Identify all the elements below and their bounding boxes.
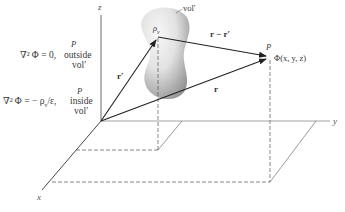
outside-eq-volume: vol′ — [72, 61, 86, 71]
x-axis-label: x — [37, 193, 41, 202]
inside-eq-point-label: P — [77, 87, 82, 96]
source-volume-blob — [141, 7, 189, 99]
y-axis-label: y — [333, 117, 337, 126]
outside-eq-lhs: ∇² Φ = 0, — [20, 51, 56, 61]
x-axis — [42, 121, 101, 190]
inside-eq-volume: vol′ — [74, 107, 88, 117]
vector-r-prime-label: r′ — [117, 72, 124, 81]
potential-label: Φ(x, y, z) — [274, 54, 306, 63]
vector-r-label: r — [214, 85, 218, 94]
source-density-label: ρv — [153, 24, 160, 35]
source-volume-label: vol′ — [183, 4, 196, 13]
field-projection-y — [270, 121, 316, 182]
source-projection-y — [158, 121, 182, 150]
outside-eq-point-label: P — [71, 40, 76, 49]
vector-r-minus-r-prime-label: r − r′ — [210, 30, 230, 39]
figure-caption-faint — [6, 204, 336, 210]
z-axis-label: z — [98, 3, 102, 12]
inside-eq-lhs: ∇² Φ = − ρv/ε, — [3, 97, 56, 108]
field-point-label: P — [266, 43, 271, 52]
